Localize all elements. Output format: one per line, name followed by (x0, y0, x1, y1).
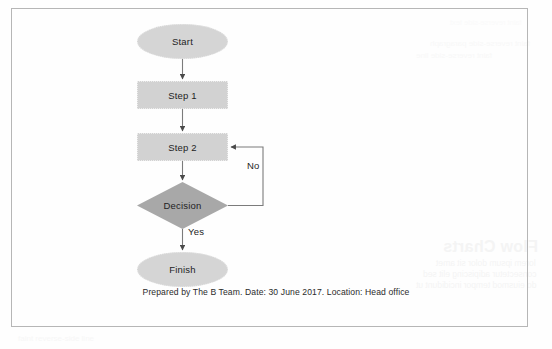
node-start-label: Start (137, 24, 228, 59)
scanned-page: Flow Charts lorem ipsum dolor sit amet c… (0, 0, 552, 349)
figure-frame (11, 8, 528, 327)
edge-label-no: No (247, 160, 260, 171)
showthrough-bottom-1: faint reverse-side line (18, 334, 94, 343)
node-finish-label: Finish (137, 252, 228, 287)
node-decision-label: Decision (137, 182, 228, 229)
edge-label-yes: Yes (188, 226, 204, 237)
figure-caption: Prepared by The B Team. Date: 30 June 20… (0, 287, 552, 297)
node-step2-label: Step 2 (137, 133, 228, 161)
node-step1-label: Step 1 (137, 81, 228, 109)
